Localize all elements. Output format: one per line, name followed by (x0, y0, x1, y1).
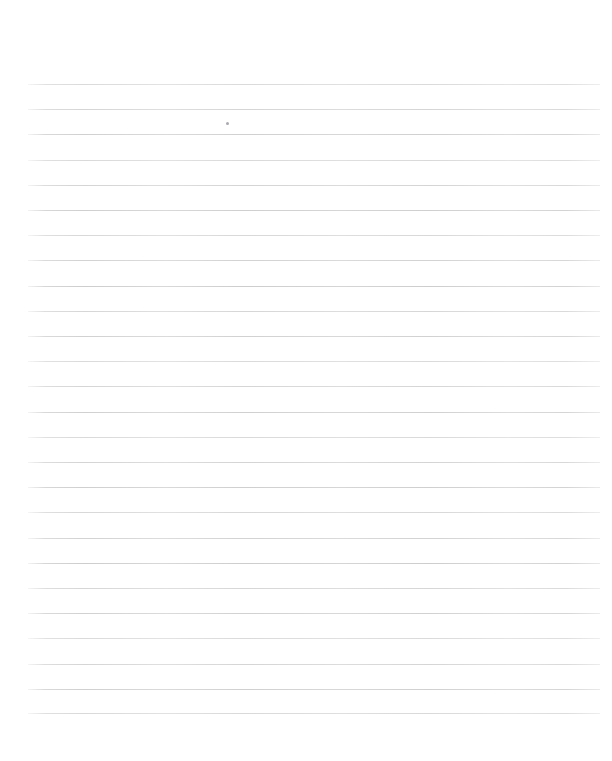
rule-line (28, 311, 600, 312)
rule-line (28, 512, 600, 513)
rule-line (28, 563, 600, 564)
rule-line (28, 713, 600, 714)
rule-line (28, 134, 600, 135)
rule-line (28, 109, 600, 110)
rule-line (28, 361, 600, 362)
rule-line (28, 412, 600, 413)
rule-line (28, 160, 600, 161)
rule-line (28, 386, 600, 387)
rule-line (28, 437, 600, 438)
rule-line (28, 689, 600, 690)
rule-line (28, 286, 600, 287)
rule-line (28, 462, 600, 463)
ruled-lines-layer (0, 0, 612, 761)
rule-line (28, 260, 600, 261)
rule-line (28, 613, 600, 614)
notebook-page (0, 0, 612, 761)
rule-line (28, 235, 600, 236)
rule-line (28, 336, 600, 337)
rule-line (28, 638, 600, 639)
rule-line (28, 84, 600, 85)
rule-line (28, 588, 600, 589)
rule-line (28, 210, 600, 211)
rule-line (28, 538, 600, 539)
stray-speck (226, 122, 229, 125)
rule-line (28, 185, 600, 186)
rule-line (28, 664, 600, 665)
rule-line (28, 487, 600, 488)
